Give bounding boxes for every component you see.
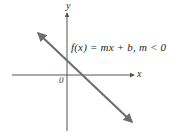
linear-function-figure: y x 0 f(x) = mx + b, m < 0 <box>0 0 178 137</box>
coordinate-plane-graphic <box>0 0 178 137</box>
function-equation-annotation: f(x) = mx + b, m < 0 <box>71 41 166 53</box>
origin-label: 0 <box>59 76 64 85</box>
x-axis-label: x <box>137 69 141 79</box>
y-axis-label: y <box>66 1 70 11</box>
